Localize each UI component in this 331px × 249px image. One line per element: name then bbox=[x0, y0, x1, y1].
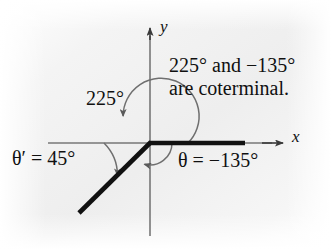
coterminal-note-line-2: are coterminal. bbox=[169, 77, 295, 100]
angle-225-label: 225° bbox=[86, 88, 124, 110]
coterminal-angle-figure: y x 225° 225° and −135° are coterminal. … bbox=[0, 0, 331, 249]
reference-angle-label: θ′ = 45° bbox=[12, 148, 75, 170]
background-fade-right bbox=[286, 0, 331, 249]
figure-canvas bbox=[0, 0, 331, 249]
x-axis-label: x bbox=[292, 128, 300, 146]
coterminal-note-line-1: 225° and −135° bbox=[169, 54, 295, 77]
background-fade-bottom bbox=[0, 214, 331, 249]
coterminal-note: 225° and −135° are coterminal. bbox=[169, 54, 295, 100]
figure-background bbox=[0, 0, 331, 249]
background-fade-left bbox=[0, 0, 46, 249]
standard-angle-label: θ = −135° bbox=[178, 150, 258, 172]
y-axis-label: y bbox=[160, 18, 168, 36]
